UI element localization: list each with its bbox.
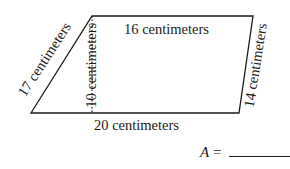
bottom-side-label: 20 centimeters (94, 118, 179, 133)
equals-sign: = (213, 144, 221, 160)
area-answer: A = (200, 144, 290, 160)
area-variable: A (200, 144, 209, 160)
answer-blank[interactable] (229, 144, 290, 157)
top-side-label: 16 centimeters (124, 22, 209, 37)
height-label: 10 centimeters (84, 23, 99, 108)
